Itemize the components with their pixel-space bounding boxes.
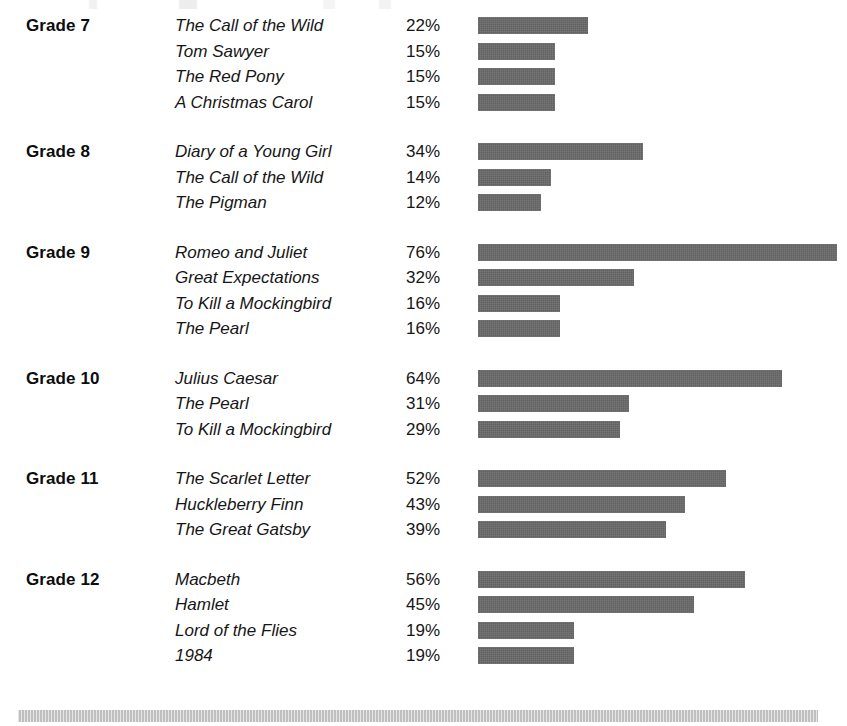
book-percent-label: 14% xyxy=(406,165,462,191)
book-title: Hamlet xyxy=(175,592,400,618)
bar xyxy=(478,395,629,412)
book-title: Diary of a Young Girl xyxy=(175,139,400,165)
book-title: A Christmas Carol xyxy=(175,90,400,116)
book-percent-label: 15% xyxy=(406,90,462,116)
book-percent-label: 43% xyxy=(406,492,462,518)
bar xyxy=(478,295,560,312)
grade-group-rows: Romeo and Juliet76%Great Expectations32%… xyxy=(0,240,847,342)
grade-group: Grade 12Macbeth56%Hamlet45%Lord of the F… xyxy=(0,567,847,669)
book-title: Great Expectations xyxy=(175,265,400,291)
bar-track xyxy=(478,366,843,392)
bar xyxy=(478,571,745,588)
book-row: A Christmas Carol15% xyxy=(0,90,847,116)
book-percent-label: 45% xyxy=(406,592,462,618)
book-row: The Call of the Wild14% xyxy=(0,165,847,191)
bar xyxy=(478,269,634,286)
bar-track xyxy=(478,90,843,116)
book-percent-label: 52% xyxy=(406,466,462,492)
book-row: Great Expectations32% xyxy=(0,265,847,291)
book-percent-label: 31% xyxy=(406,391,462,417)
bar-track xyxy=(478,291,843,317)
book-row: Tom Sawyer15% xyxy=(0,39,847,65)
bar-track xyxy=(478,316,843,342)
grade-group: Grade 7The Call of the Wild22%Tom Sawyer… xyxy=(0,13,847,115)
book-percent-label: 19% xyxy=(406,618,462,644)
book-row: The Pearl31% xyxy=(0,391,847,417)
bar xyxy=(478,17,588,34)
bar-track xyxy=(478,190,843,216)
book-row: Lord of the Flies19% xyxy=(0,618,847,644)
book-row: Macbeth56% xyxy=(0,567,847,593)
book-title: Lord of the Flies xyxy=(175,618,400,644)
bar xyxy=(478,94,555,111)
bar-track xyxy=(478,391,843,417)
book-percent-label: 16% xyxy=(406,291,462,317)
book-title: Julius Caesar xyxy=(175,366,400,392)
book-row: The Call of the Wild22% xyxy=(0,13,847,39)
bar-track xyxy=(478,643,843,669)
book-row: The Great Gatsby39% xyxy=(0,517,847,543)
book-title: The Great Gatsby xyxy=(175,517,400,543)
bar-track xyxy=(478,39,843,65)
bar xyxy=(478,143,643,160)
book-title: The Pearl xyxy=(175,391,400,417)
book-row: Hamlet45% xyxy=(0,592,847,618)
book-percent-label: 15% xyxy=(406,64,462,90)
bar-track xyxy=(478,567,843,593)
grade-group: Grade 10Julius Caesar64%The Pearl31%To K… xyxy=(0,366,847,443)
bar xyxy=(478,370,782,387)
bottom-rule-band xyxy=(18,710,818,722)
book-title: Romeo and Juliet xyxy=(175,240,400,266)
bar-track xyxy=(478,240,843,266)
book-percent-label: 15% xyxy=(406,39,462,65)
bar xyxy=(478,647,574,664)
grade-group-rows: The Call of the Wild22%Tom Sawyer15%The … xyxy=(0,13,847,115)
book-percent-label: 56% xyxy=(406,567,462,593)
book-percent-label: 64% xyxy=(406,366,462,392)
grade-group-rows: Julius Caesar64%The Pearl31%To Kill a Mo… xyxy=(0,366,847,443)
bar xyxy=(478,68,555,85)
book-percent-label: 16% xyxy=(406,316,462,342)
book-percent-label: 29% xyxy=(406,417,462,443)
bar xyxy=(478,244,837,261)
grade-group: Grade 8Diary of a Young Girl34%The Call … xyxy=(0,139,847,216)
bar xyxy=(478,194,541,211)
grade-group-rows: Diary of a Young Girl34%The Call of the … xyxy=(0,139,847,216)
grade-group-rows: The Scarlet Letter52%Huckleberry Finn43%… xyxy=(0,466,847,543)
bar xyxy=(478,496,685,513)
book-row: The Red Pony15% xyxy=(0,64,847,90)
book-row: To Kill a Mockingbird16% xyxy=(0,291,847,317)
book-title: 1984 xyxy=(175,643,400,669)
book-row: The Pigman12% xyxy=(0,190,847,216)
book-title: The Red Pony xyxy=(175,64,400,90)
bar xyxy=(478,521,666,538)
bar-track xyxy=(478,592,843,618)
book-percent-label: 32% xyxy=(406,265,462,291)
bar xyxy=(478,169,551,186)
book-row: The Pearl16% xyxy=(0,316,847,342)
book-title: Macbeth xyxy=(175,567,400,593)
grade-group: Grade 11The Scarlet Letter52%Huckleberry… xyxy=(0,466,847,543)
bar xyxy=(478,421,620,438)
bar-track xyxy=(478,417,843,443)
book-percent-label: 34% xyxy=(406,139,462,165)
book-row: To Kill a Mockingbird29% xyxy=(0,417,847,443)
bar-track xyxy=(478,492,843,518)
book-percent-label: 22% xyxy=(406,13,462,39)
book-title: Huckleberry Finn xyxy=(175,492,400,518)
book-row: 198419% xyxy=(0,643,847,669)
book-percent-label: 76% xyxy=(406,240,462,266)
grade-group-list: Grade 7The Call of the Wild22%Tom Sawyer… xyxy=(0,13,847,669)
bar xyxy=(478,470,726,487)
bar xyxy=(478,43,555,60)
grade-group: Grade 9Romeo and Juliet76%Great Expectat… xyxy=(0,240,847,342)
grade-reading-bar-chart: Grade 7The Call of the Wild22%Tom Sawyer… xyxy=(0,0,847,726)
book-row: The Scarlet Letter52% xyxy=(0,466,847,492)
bar-track xyxy=(478,618,843,644)
bar xyxy=(478,596,694,613)
book-row: Romeo and Juliet76% xyxy=(0,240,847,266)
bar-track xyxy=(478,466,843,492)
bar-track xyxy=(478,64,843,90)
bar-track xyxy=(478,265,843,291)
bar-track xyxy=(478,165,843,191)
